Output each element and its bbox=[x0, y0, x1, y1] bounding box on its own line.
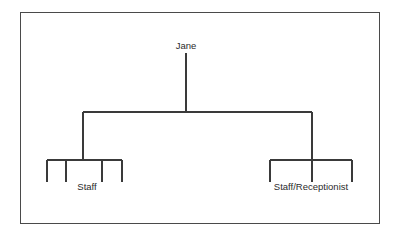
node-label-left-branch: Staff bbox=[77, 181, 97, 192]
node-label-root: Jane bbox=[176, 40, 197, 51]
org-chart-canvas: Jane Staff Staff/Receptionist bbox=[0, 0, 399, 238]
org-chart-svg: Jane Staff Staff/Receptionist bbox=[0, 0, 399, 238]
node-label-right-branch: Staff/Receptionist bbox=[274, 181, 349, 192]
